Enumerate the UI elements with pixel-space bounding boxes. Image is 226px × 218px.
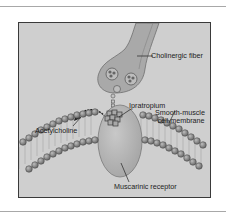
vesicle-icon <box>106 68 118 80</box>
label-membrane-line2: cell membrane <box>155 117 205 125</box>
vesicle-icon <box>125 73 137 85</box>
diagram-frame: Cholinergic fiber Ipratropium Acetylchol… <box>18 22 211 198</box>
top-divider <box>0 6 226 7</box>
label-cholinergic-fiber: Cholinergic fiber <box>151 52 203 60</box>
label-acetylcholine: Acetylcholine <box>35 127 77 135</box>
bottom-divider <box>0 211 226 212</box>
label-smooth-muscle-membrane: Smooth-muscle cell membrane <box>155 109 205 125</box>
cholinergic-fiber-shape <box>98 23 159 93</box>
label-muscarinic-receptor: Muscarinic receptor <box>114 183 177 191</box>
